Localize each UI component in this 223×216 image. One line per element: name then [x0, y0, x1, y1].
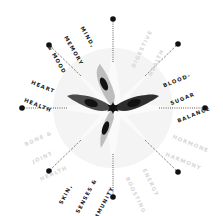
label-line: DIGESTIVE [130, 29, 154, 69]
label-line: HEART [30, 80, 59, 97]
label-line: SENSES & [74, 177, 98, 215]
label-line: BLOOD- [162, 70, 197, 89]
label-line: HORMONE [172, 134, 210, 154]
label-line: MIND, [79, 25, 101, 57]
label-line: MEMORY [63, 35, 85, 67]
label-line: ENERGY [141, 168, 164, 207]
label-line: SUGAR [169, 87, 204, 106]
label-line: BONE & [24, 130, 54, 148]
dot-top [110, 16, 116, 22]
label-line: HEALTH [23, 97, 52, 114]
label-line: JOINT [31, 147, 61, 165]
center-hub [110, 105, 117, 112]
